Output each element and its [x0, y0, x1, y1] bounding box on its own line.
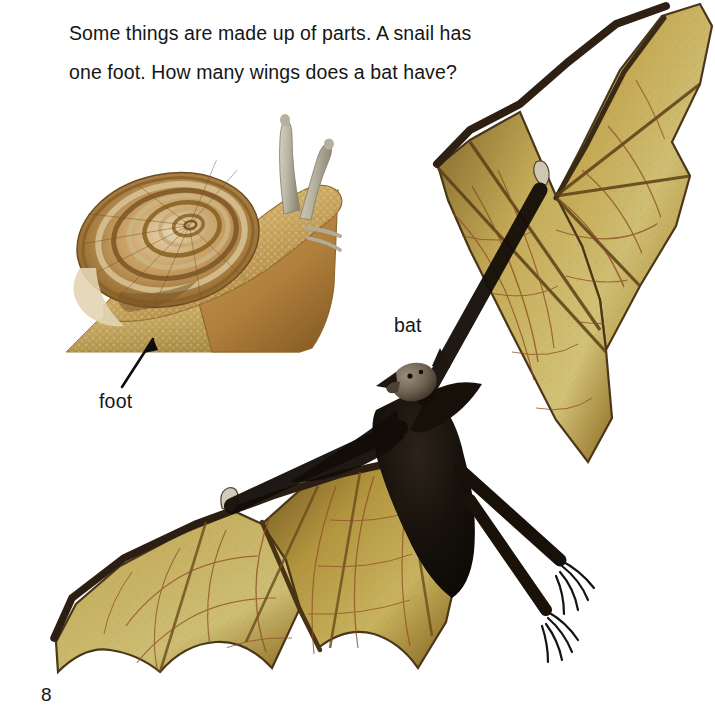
lesson-text: Some things are made up of parts. A snai…: [69, 14, 609, 92]
bat-right-claws: [556, 560, 594, 614]
snail-figure: [64, 114, 342, 352]
bat-left-claws: [542, 612, 578, 662]
label-bat: bat: [394, 314, 422, 337]
bat-feet: [460, 470, 594, 662]
page-number: 8: [41, 684, 52, 706]
label-foot: foot: [99, 390, 132, 413]
page-canvas: Some things are made up of parts. A snai…: [0, 0, 715, 721]
figure-artwork-layer: [0, 0, 715, 721]
